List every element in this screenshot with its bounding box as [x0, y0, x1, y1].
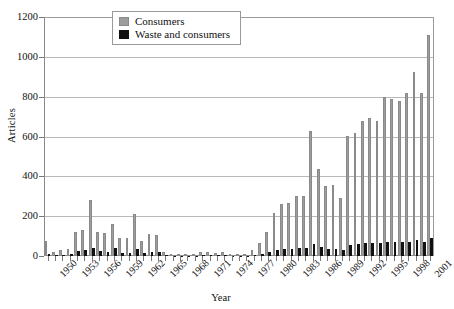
y-tick-label: 1000 — [0, 52, 38, 62]
bar-waste-and-consumers — [298, 248, 301, 256]
bar-group — [103, 17, 110, 256]
bar-group — [191, 17, 198, 256]
x-tick-label: 1965 — [168, 258, 189, 279]
bar-waste-and-consumers — [291, 249, 294, 256]
bar-group — [375, 17, 382, 256]
bar-consumers — [295, 196, 298, 256]
x-tick-label: 1962 — [146, 258, 167, 279]
bar-consumers — [383, 97, 386, 256]
bar-consumers — [427, 35, 430, 256]
x-tick-label: 1980 — [278, 258, 299, 279]
bar-group — [390, 17, 397, 256]
bar-waste-and-consumers — [371, 243, 374, 256]
bar-waste-and-consumers — [92, 248, 95, 256]
bar-consumers — [354, 133, 357, 256]
bar-group — [184, 17, 191, 256]
bar-group — [199, 17, 206, 256]
bar-group — [228, 17, 235, 256]
bar-waste-and-consumers — [327, 249, 330, 256]
x-tick-label: 1974 — [234, 258, 255, 279]
x-tick-label: 1986 — [322, 258, 343, 279]
bar-waste-and-consumers — [305, 248, 308, 256]
bar-group — [125, 17, 132, 256]
legend: Consumers Waste and consumers — [112, 11, 241, 45]
y-tick-label: 600 — [0, 132, 38, 142]
bar-consumers — [420, 93, 423, 256]
bar-group — [272, 17, 279, 256]
bar-group — [346, 17, 353, 256]
bar-waste-and-consumers — [379, 243, 382, 256]
bar-group — [427, 17, 434, 256]
bar-consumers — [339, 198, 342, 256]
bar-group — [221, 17, 228, 256]
bar-group — [81, 17, 88, 256]
bar-waste-and-consumers — [320, 247, 323, 256]
bar-group — [405, 17, 412, 256]
bar-group — [324, 17, 331, 256]
bar-group — [169, 17, 176, 256]
x-tick-label: 1959 — [124, 258, 145, 279]
x-tick-label: 1968 — [190, 258, 211, 279]
bar-waste-and-consumers — [313, 244, 316, 256]
bar-group — [243, 17, 250, 256]
bar-consumers — [368, 118, 371, 256]
bar-consumers — [309, 131, 312, 256]
bar-group — [110, 17, 117, 256]
x-axis-tick-labels: 1950195319561959196219651968197119741977… — [0, 258, 442, 294]
bar-group — [382, 17, 389, 256]
x-tick-label: 1989 — [345, 258, 366, 279]
legend-item-waste-and-consumers: Waste and consumers — [119, 28, 230, 41]
x-axis-title: Year — [0, 292, 442, 303]
bar-consumers — [332, 185, 335, 256]
bar-group — [309, 17, 316, 256]
bar-group — [360, 17, 367, 256]
bar-group — [353, 17, 360, 256]
bar-consumers — [317, 169, 320, 256]
bar-group — [257, 17, 264, 256]
black-swatch-icon — [119, 30, 129, 39]
bar-group — [419, 17, 426, 256]
bar-waste-and-consumers — [430, 238, 433, 256]
bar-waste-and-consumers — [349, 245, 352, 256]
x-tick-label: 1983 — [300, 258, 321, 279]
bar-group — [302, 17, 309, 256]
legend-label: Consumers — [135, 16, 185, 27]
x-tick-label: 1953 — [80, 258, 101, 279]
bar-group — [206, 17, 213, 256]
x-tick-label: 2001 — [433, 258, 454, 279]
bar-group — [287, 17, 294, 256]
bar-group — [88, 17, 95, 256]
bar-waste-and-consumers — [394, 242, 397, 256]
x-tick-label: 1971 — [212, 258, 233, 279]
bar-waste-and-consumers — [283, 249, 286, 256]
bar-waste-and-consumers — [401, 242, 404, 256]
bar-group — [140, 17, 147, 256]
x-tick-label: 1995 — [389, 258, 410, 279]
bar-group — [66, 17, 73, 256]
bar-consumers — [346, 136, 349, 256]
bar-group — [154, 17, 161, 256]
bar-group — [132, 17, 139, 256]
bar-group — [397, 17, 404, 256]
bar-group — [316, 17, 323, 256]
legend-label: Waste and consumers — [135, 29, 230, 40]
y-tick-label: 1200 — [0, 12, 38, 22]
bar-group — [368, 17, 375, 256]
x-tick-label: 1998 — [411, 258, 432, 279]
bar-waste-and-consumers — [357, 244, 360, 256]
bar-consumers — [405, 93, 408, 256]
x-tick-label: 1950 — [58, 258, 79, 279]
bar-group — [118, 17, 125, 256]
bar-group — [73, 17, 80, 256]
bar-waste-and-consumers — [335, 249, 338, 256]
bar-consumers — [324, 186, 327, 256]
bar-group — [279, 17, 286, 256]
bar-waste-and-consumers — [386, 242, 389, 256]
bar-group — [176, 17, 183, 256]
bar-group — [162, 17, 169, 256]
bar-group — [294, 17, 301, 256]
bar-waste-and-consumers — [416, 240, 419, 256]
bar-group — [412, 17, 419, 256]
bar-group — [51, 17, 58, 256]
